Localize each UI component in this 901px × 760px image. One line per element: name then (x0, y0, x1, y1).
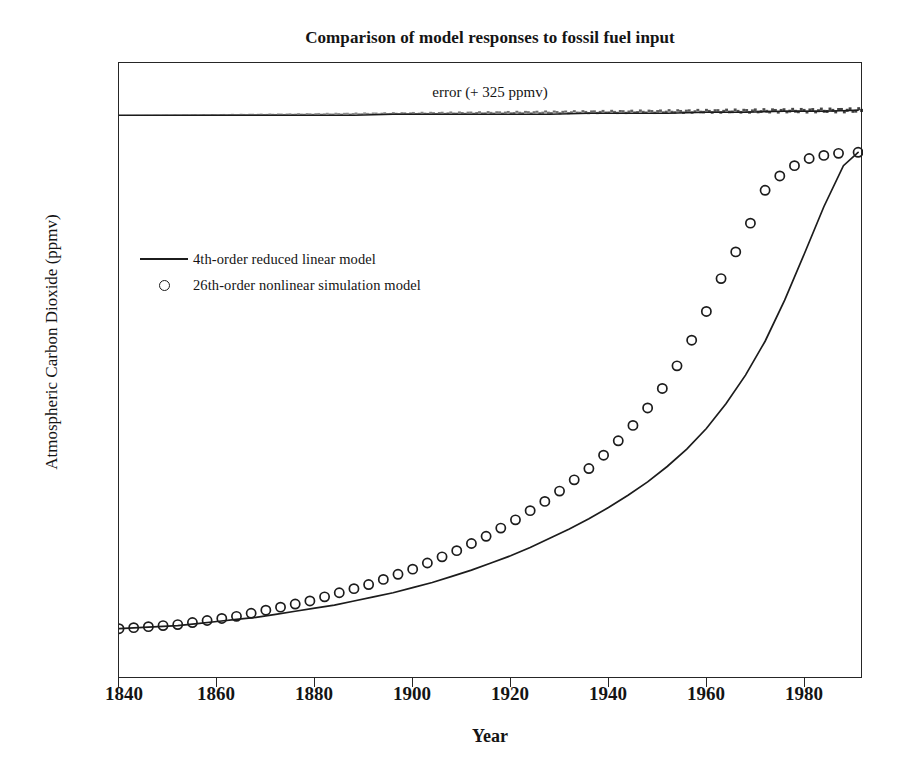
legend-entry-linear-label: 4th-order reduced linear model (193, 251, 376, 268)
x-tick-label-1980: 1980 (764, 684, 844, 703)
x-tick-label-1960: 1960 (666, 684, 746, 703)
series-linear-model-line (119, 152, 858, 628)
x-tick-label-1900: 1900 (372, 684, 452, 703)
line-key-icon (135, 258, 193, 260)
chart-figure: Comparison of model responses to fossil … (0, 0, 901, 760)
error-annotation-label: error (+ 325 ppmv) (118, 84, 862, 101)
x-tick-label-1860: 1860 (176, 684, 256, 703)
x-tick-label-1920: 1920 (470, 684, 550, 703)
legend-entry-nonlinear: 26th-order nonlinear simulation model (135, 272, 421, 298)
x-axis-title: Year (118, 726, 862, 747)
series-nonlinear-model-markers (119, 148, 863, 634)
plot-area (118, 62, 862, 678)
x-tick-label-1940: 1940 (568, 684, 648, 703)
chart-title: Comparison of model responses to fossil … (118, 28, 862, 48)
series-error-line (119, 107, 863, 116)
legend-entry-linear: 4th-order reduced linear model (135, 246, 421, 272)
x-tick-label-1840: 1840 (84, 684, 164, 703)
plot-svg (119, 63, 863, 679)
x-tick-label-1880: 1880 (274, 684, 354, 703)
legend-entry-nonlinear-label: 26th-order nonlinear simulation model (193, 277, 421, 294)
y-axis-title: Atmospheric Carbon Dioxide (ppmv) (42, 32, 62, 652)
circle-marker-icon (135, 280, 193, 291)
chart-legend: 4th-order reduced linear model 26th-orde… (135, 246, 421, 298)
